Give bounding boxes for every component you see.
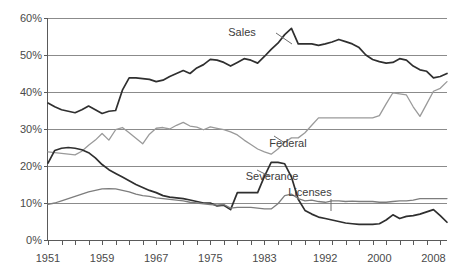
x-tick-label: 1992 xyxy=(313,252,337,264)
y-tick-label: 60% xyxy=(20,12,42,24)
x-tick-label: 2008 xyxy=(421,252,445,264)
series-label-severance: Severance xyxy=(246,170,299,182)
x-tick-label: 1951 xyxy=(36,252,60,264)
series-line-licenses xyxy=(48,189,447,209)
x-tick-label: 1959 xyxy=(90,252,114,264)
series-annotations-group: SalesFederalSeveranceLicenses xyxy=(228,26,332,211)
line-chart-figure: 0%10%20%30%40%50%60% 1951195919671975198… xyxy=(0,0,452,278)
series-line-sales xyxy=(48,28,447,113)
series-label-sales: Sales xyxy=(228,26,256,38)
y-tick-label: 50% xyxy=(20,49,42,61)
x-tick-label: 1983 xyxy=(252,252,276,264)
series-label-federal: Federal xyxy=(269,137,306,149)
x-tick-label: 1975 xyxy=(198,252,222,264)
x-tick-label: 2000 xyxy=(367,252,391,264)
y-axis-tick-labels: 0%10%20%30%40%50%60% xyxy=(20,12,48,246)
y-tick-label: 40% xyxy=(20,86,42,98)
chart-canvas: 0%10%20%30%40%50%60% 1951195919671975198… xyxy=(0,0,452,278)
y-tick-label: 0% xyxy=(26,234,42,246)
x-tick-label: 1967 xyxy=(144,252,168,264)
y-tick-label: 20% xyxy=(20,160,42,172)
series-line-severance xyxy=(48,148,447,225)
x-axis-tick-labels: 19511959196719751983199220002008 xyxy=(36,252,446,264)
y-tick-label: 30% xyxy=(20,123,42,135)
y-tick-label: 10% xyxy=(20,197,42,209)
data-series-group xyxy=(48,28,447,224)
series-label-licenses: Licenses xyxy=(288,186,332,198)
